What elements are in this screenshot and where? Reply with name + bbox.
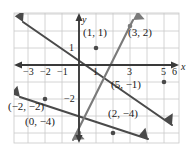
x-tick-1: 1 <box>93 67 98 77</box>
point-label-3-2: (3, 2) <box>128 27 152 38</box>
y-tick-1: 1 <box>69 43 74 53</box>
x-tick-3: 3 <box>127 67 132 77</box>
point-label-5-neg1: (5, −1) <box>111 79 141 90</box>
point-label-2-neg4: (2, −4) <box>108 108 138 119</box>
x-tick-neg3: −3 <box>23 67 34 77</box>
graph-figure: x y −3 −2 −1 1 3 5 6 1 −2 (1, 1) (3, 2) … <box>0 0 193 153</box>
x-tick-5: 5 <box>161 67 166 77</box>
point-1-1 <box>94 46 99 51</box>
point-2-neg4 <box>111 131 116 136</box>
y-axis-label: y <box>82 15 86 25</box>
x-tick-neg1: −1 <box>57 67 68 77</box>
y-tick-neg2: −2 <box>64 94 75 104</box>
point-label-1-1: (1, 1) <box>83 27 107 38</box>
point-5-neg1 <box>162 80 167 85</box>
point-label-neg2-neg2: (−2, −2) <box>8 101 44 112</box>
x-axis-label: x <box>181 62 185 72</box>
point-label-0-neg4: (0, −4) <box>25 116 55 127</box>
x-tick-6: 6 <box>172 67 177 77</box>
x-tick-neg2: −2 <box>40 67 51 77</box>
